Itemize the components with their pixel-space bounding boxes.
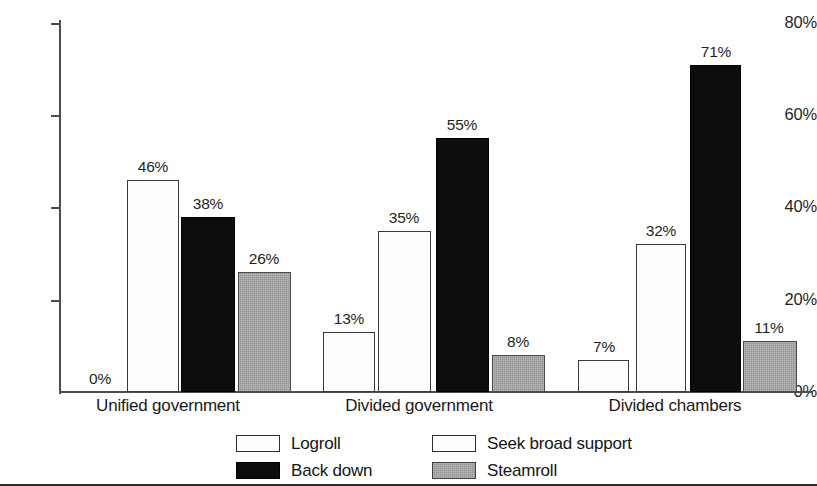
- legend-item-logroll[interactable]: Logroll: [236, 433, 341, 454]
- bar-g2-logroll[interactable]: [578, 360, 629, 392]
- bar-value-g1-logroll: 13%: [313, 310, 385, 328]
- category-label-divided-chambers: Divided chambers: [552, 396, 798, 416]
- bar-value-g1-seek-broad-support: 35%: [368, 209, 440, 227]
- bar-value-g0-seek-broad-support: 46%: [117, 158, 189, 176]
- legend-swatch-back-down-icon: [236, 462, 280, 479]
- bar-value-g0-steamroll: 26%: [228, 250, 300, 268]
- legend-label-logroll: Logroll: [291, 434, 341, 454]
- legend-label-steamroll: Steamroll: [487, 461, 557, 481]
- legend-swatch-seek-broad-support-icon: [432, 435, 476, 452]
- bar-value-g2-steamroll: 11%: [733, 319, 805, 337]
- bar-g1-seek-broad-support[interactable]: [378, 231, 431, 392]
- bar-g2-back-down[interactable]: [690, 65, 741, 392]
- bar-value-g2-logroll: 7%: [568, 338, 640, 356]
- bar-g1-logroll[interactable]: [323, 332, 375, 392]
- legend-label-back-down: Back down: [291, 461, 372, 481]
- legend-item-seek-broad-support[interactable]: Seek broad support: [432, 433, 632, 454]
- bar-g1-back-down[interactable]: [436, 138, 489, 392]
- legend-swatch-steamroll-icon: [432, 462, 476, 479]
- legend-item-back-down[interactable]: Back down: [236, 460, 372, 481]
- bar-value-g0-back-down: 38%: [172, 195, 244, 213]
- bar-g2-seek-broad-support[interactable]: [636, 244, 686, 392]
- legend-label-seek-broad-support: Seek broad support: [487, 434, 632, 454]
- bar-chart: 80% 60% 40% 20% 0% 0% 46% 38% 26% 13% 35…: [0, 0, 817, 486]
- category-label-unified-government: Unified government: [45, 396, 291, 416]
- bar-g0-back-down[interactable]: [181, 217, 235, 392]
- bar-value-g1-back-down: 55%: [426, 116, 498, 134]
- bar-value-g2-seek-broad-support: 32%: [625, 222, 697, 240]
- legend-swatch-logroll-icon: [236, 435, 280, 452]
- bar-value-g1-steamroll: 8%: [482, 333, 554, 351]
- legend: Logroll Seek broad support Back down Ste…: [236, 433, 656, 481]
- bar-g1-steamroll[interactable]: [492, 355, 545, 392]
- bar-value-g0-logroll: 0%: [64, 370, 136, 388]
- category-label-divided-government: Divided government: [296, 396, 542, 416]
- bar-g0-steamroll[interactable]: [238, 272, 291, 392]
- bar-g2-steamroll[interactable]: [743, 341, 797, 392]
- legend-item-steamroll[interactable]: Steamroll: [432, 460, 557, 481]
- plot-area: 0% 46% 38% 26% 13% 35% 55% 8% 7% 32% 71%…: [59, 23, 811, 392]
- bar-value-g2-back-down: 71%: [680, 43, 752, 61]
